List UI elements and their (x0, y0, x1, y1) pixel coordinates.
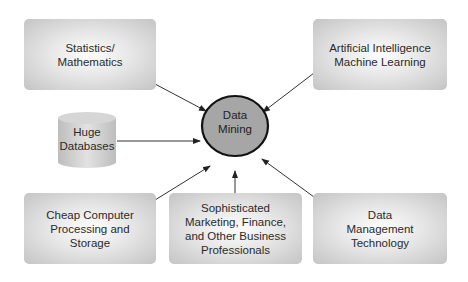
data-mining-line1: Data (202, 108, 268, 122)
node-ai-line2: Machine Learning (329, 55, 431, 69)
node-ai-line1: Artificial Intelligence (329, 41, 431, 55)
node-professionals: Sophisticated Marketing, Finance, and Ot… (169, 193, 302, 264)
data-mining-line2: Mining (202, 122, 268, 136)
node-databases: Huge Databases (57, 111, 117, 169)
node-databases-label: Huge Databases (57, 125, 117, 153)
node-professionals-line3: and Other Business (185, 229, 286, 243)
node-databases-line1: Huge (57, 125, 117, 139)
node-data-management-line3: Technology (346, 236, 413, 250)
node-databases-line2: Databases (57, 139, 117, 153)
node-cheap-computing-line3: Storage (46, 236, 134, 250)
node-statistics-line1: Statistics/ (57, 41, 122, 55)
node-cheap-computing-line1: Cheap Computer (46, 208, 134, 222)
data-mining-label: Data Mining (202, 108, 268, 136)
node-data-management-line1: Data (346, 208, 413, 222)
node-professionals-line2: Marketing, Finance, (185, 215, 286, 229)
node-statistics-line2: Mathematics (57, 55, 122, 69)
arrow-statistics-to-mining (155, 84, 206, 111)
arrow-data-management-to-mining (262, 159, 314, 197)
node-professionals-line4: Professionals (185, 243, 286, 257)
node-cheap-computing: Cheap Computer Processing and Storage (24, 193, 156, 264)
node-ai: Artificial Intelligence Machine Learning (313, 19, 447, 90)
arrow-ai-to-mining (263, 73, 314, 112)
node-cheap-computing-line2: Processing and (46, 222, 134, 236)
node-data-management: Data Management Technology (313, 193, 447, 264)
node-data-management-line2: Management (346, 222, 413, 236)
node-professionals-line1: Sophisticated (185, 201, 286, 215)
node-statistics: Statistics/ Mathematics (24, 19, 156, 90)
